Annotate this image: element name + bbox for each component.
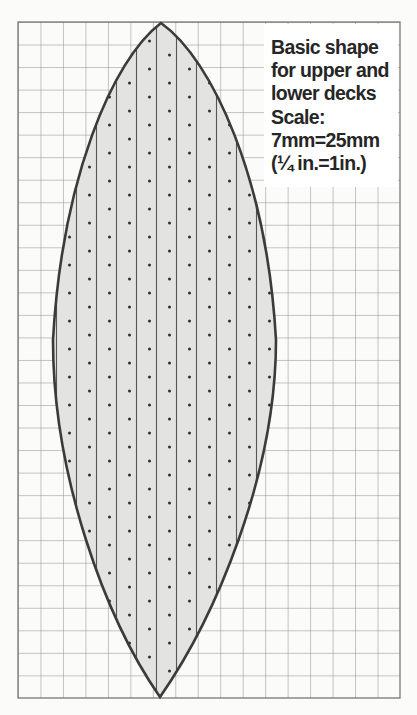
caption-line-6: (¼ in.=1in.) bbox=[271, 152, 401, 175]
diagram-page: Basic shape for upper and lower decks Sc… bbox=[0, 0, 417, 715]
caption-line-1: Basic shape bbox=[271, 36, 401, 59]
caption-line-2: for upper and bbox=[271, 59, 401, 82]
caption-line-4: Scale: bbox=[271, 106, 401, 129]
caption-line-3: lower decks bbox=[271, 82, 401, 105]
caption-text-block: Basic shape for upper and lower decks Sc… bbox=[271, 36, 401, 175]
caption-line-5: 7mm=25mm bbox=[271, 129, 401, 152]
